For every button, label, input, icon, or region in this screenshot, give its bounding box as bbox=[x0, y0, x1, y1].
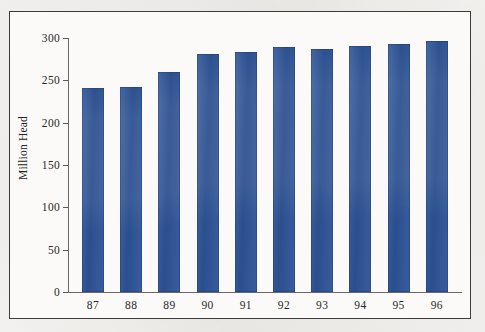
x-tick-label: 90 bbox=[192, 299, 224, 311]
x-tick-label: 94 bbox=[344, 299, 376, 311]
bar-95 bbox=[388, 44, 410, 292]
x-tick-label: 88 bbox=[115, 299, 147, 311]
bar-chart-plot: Million Head 050100150200250300 87888990… bbox=[0, 0, 485, 332]
y-tick-label: 50 bbox=[30, 244, 60, 256]
x-tick-label: 93 bbox=[306, 299, 338, 311]
y-axis-title: Million Head bbox=[17, 93, 29, 203]
y-tick-label: 300 bbox=[30, 32, 60, 44]
y-tick-label: 100 bbox=[30, 201, 60, 213]
x-tick-label: 96 bbox=[421, 299, 453, 311]
x-tick-label: 91 bbox=[230, 299, 262, 311]
bar-91 bbox=[235, 52, 257, 292]
bar-94 bbox=[349, 46, 371, 292]
x-tick-label: 87 bbox=[77, 299, 109, 311]
x-tick-label: 95 bbox=[383, 299, 415, 311]
bar-96 bbox=[426, 41, 448, 292]
y-tick-label: 0 bbox=[30, 286, 60, 298]
bar-89 bbox=[158, 72, 180, 292]
y-tick-label: 150 bbox=[30, 159, 60, 171]
figure-container: Million Head 050100150200250300 87888990… bbox=[0, 0, 485, 332]
y-axis-line bbox=[68, 38, 69, 292]
x-axis-line bbox=[68, 292, 462, 293]
x-tick-label: 92 bbox=[268, 299, 300, 311]
bar-93 bbox=[311, 49, 333, 292]
bar-88 bbox=[120, 87, 142, 292]
x-tick-label: 89 bbox=[153, 299, 185, 311]
y-tick-label: 200 bbox=[30, 117, 60, 129]
bar-90 bbox=[197, 54, 219, 292]
y-tick-label: 250 bbox=[30, 74, 60, 86]
bar-92 bbox=[273, 47, 295, 292]
bar-87 bbox=[82, 88, 104, 292]
